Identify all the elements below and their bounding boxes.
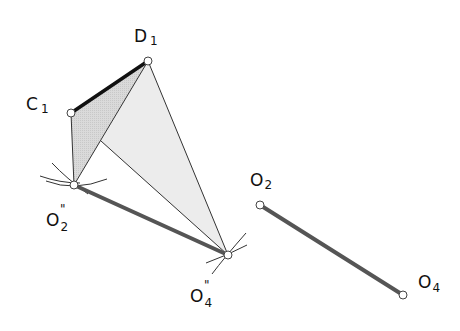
pivot-o4pp — [224, 251, 232, 259]
label-o4: O4 — [418, 272, 440, 295]
pivot-o4 — [399, 291, 407, 299]
pivot-c1 — [67, 109, 75, 117]
label-o2: O2 — [250, 170, 272, 192]
pivot-o2 — [256, 201, 264, 209]
link-o2-o4 — [260, 205, 403, 295]
label-o2pp: O2" — [46, 202, 68, 234]
pivot-o2pp — [70, 181, 78, 189]
label-d1: D1 — [134, 26, 158, 48]
label-c1: C1 — [26, 94, 49, 116]
linkage-diagram: C1 D1 O2" O4" O2 O4 — [0, 0, 460, 331]
pivot-d1 — [144, 57, 152, 65]
label-o4pp: O4" — [190, 278, 212, 310]
